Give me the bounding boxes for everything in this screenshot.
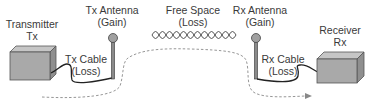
- receiver-label-line2: Rx: [312, 36, 368, 48]
- rx-antenna-label-line2: (Gain): [227, 16, 293, 28]
- rx-antenna-label-line1: Rx Antenna: [227, 4, 293, 16]
- transmitter-label: Transmitter Tx: [2, 18, 62, 42]
- receiver-label-line1: Receiver: [312, 24, 368, 36]
- receiver-label: Receiver Rx: [312, 24, 368, 48]
- tx-cable-label: Tx Cable (Loss): [62, 53, 110, 77]
- tx-cable-label-line2: (Loss): [62, 65, 110, 77]
- receiver-box: [317, 52, 364, 83]
- transmitter-label-line2: Tx: [2, 30, 62, 42]
- free-space-label-line2: (Loss): [160, 16, 226, 28]
- tx-cable-label-line1: Tx Cable: [62, 53, 110, 65]
- rx-cable-label: Rx Cable (Loss): [259, 53, 307, 77]
- rx-antenna-label: Rx Antenna (Gain): [227, 4, 293, 28]
- transmitter-box: [10, 46, 56, 80]
- tx-antenna-label-line2: (Gain): [80, 16, 144, 28]
- free-space-label: Free Space (Loss): [160, 4, 226, 28]
- rx-cable-label-line1: Rx Cable: [259, 53, 307, 65]
- tx-antenna-label-line1: Tx Antenna: [80, 4, 144, 16]
- free-space-wave: [152, 32, 236, 39]
- tx-antenna-label: Tx Antenna (Gain): [80, 4, 144, 28]
- signal-arrowhead-icon: [305, 93, 312, 99]
- free-space-label-line1: Free Space: [160, 4, 226, 16]
- transmitter-label-line1: Transmitter: [2, 18, 62, 30]
- rx-cable-label-line2: (Loss): [259, 65, 307, 77]
